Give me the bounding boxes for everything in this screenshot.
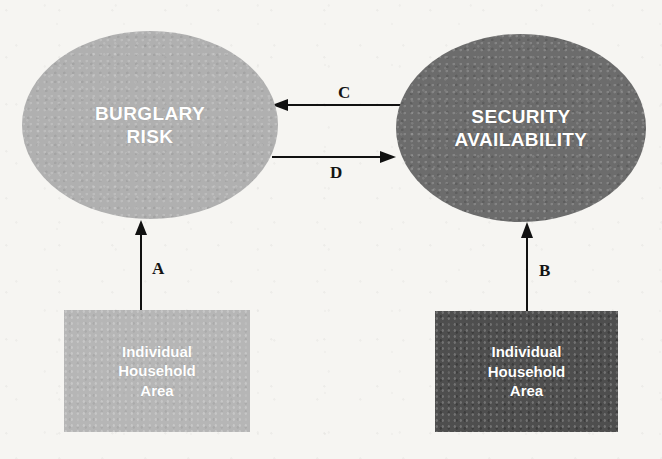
node-burglary-risk: BURGLARY RISK: [22, 31, 278, 219]
node-household-right-label: Individual Household Area: [488, 342, 566, 401]
edge-label-a: A: [152, 260, 164, 277]
diagram-canvas: BURGLARY RISK SECURITY AVAILABILITY Indi…: [0, 0, 662, 459]
node-security-availability-label: SECURITY AVAILABILITY: [455, 105, 588, 151]
node-household-left: Individual Household Area: [64, 310, 250, 432]
edge-b: [521, 222, 533, 311]
edge-d: [272, 151, 396, 163]
node-burglary-risk-label: BURGLARY RISK: [95, 102, 205, 148]
edge-label-d: D: [330, 164, 342, 181]
edge-a: [135, 220, 147, 310]
edge-label-b: B: [539, 262, 550, 279]
node-household-right: Individual Household Area: [435, 311, 618, 432]
edge-label-c: C: [338, 84, 350, 101]
node-security-availability: SECURITY AVAILABILITY: [396, 34, 646, 222]
node-household-left-label: Individual Household Area: [118, 342, 196, 401]
